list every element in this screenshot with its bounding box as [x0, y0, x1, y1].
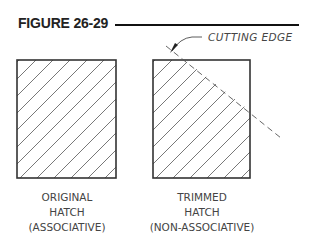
caption-line: (NON-ASSOCIATIVE): [150, 221, 255, 233]
trimmed-hatch-panel: [37, 60, 312, 178]
caption-line: ORIGINAL: [42, 191, 93, 203]
hatch-trim-diagram: CUTTING EDGE ORIGINAL HATCH (ASSOCIATIVE…: [0, 0, 312, 246]
trimmed-caption: TRIMMED HATCH (NON-ASSOCIATIVE): [150, 191, 255, 233]
original-caption: ORIGINAL HATCH (ASSOCIATIVE): [28, 191, 105, 233]
cutting-edge-leader: [170, 37, 202, 53]
caption-line: TRIMMED: [176, 191, 227, 203]
caption-line: HATCH: [184, 206, 219, 218]
original-boundary: [17, 60, 116, 178]
trimmed-boundary: [153, 60, 250, 178]
arrowhead-icon: [170, 43, 178, 53]
original-hatch-panel: [0, 60, 223, 178]
hatch-lines: [37, 60, 312, 178]
hatch-lines: [0, 60, 223, 178]
caption-line: HATCH: [49, 206, 84, 218]
caption-line: (ASSOCIATIVE): [28, 221, 105, 233]
cutting-edge-label: CUTTING EDGE: [208, 31, 293, 43]
